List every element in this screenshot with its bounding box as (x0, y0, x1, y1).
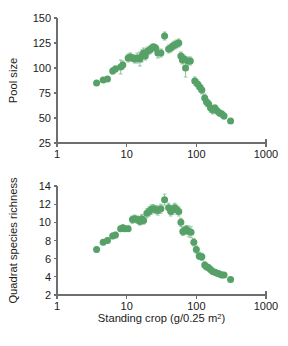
x-tick-label: 1 (54, 300, 60, 312)
y-tick-label: 75 (39, 87, 51, 99)
data-point (190, 239, 197, 246)
y-tick-label: 4 (45, 271, 51, 283)
x-tick-label: 10 (121, 148, 133, 160)
x-tick-label: 1 (54, 148, 60, 160)
data-point (227, 276, 234, 283)
x-tick-label: 100 (187, 300, 205, 312)
data-point (112, 232, 119, 239)
pool-size-scatter-plot: 2550751001251501101001000Pool size (0, 0, 288, 172)
x-tick-label: 10 (121, 300, 133, 312)
data-point (175, 208, 182, 215)
data-point (175, 40, 182, 47)
data-point (157, 50, 164, 57)
data-point (198, 87, 205, 94)
data-point (227, 118, 234, 125)
data-point (104, 76, 111, 83)
x-axis-title: Standing crop (g/0.25 m2) (98, 312, 226, 324)
y-tick-label: 14 (39, 180, 51, 192)
chart-panel-pool-size: 2550751001251501101001000Pool size (0, 0, 288, 172)
data-point (161, 196, 168, 203)
data-point (187, 58, 194, 65)
y-tick-label: 12 (39, 198, 51, 210)
data-point (198, 253, 205, 260)
data-point (193, 246, 200, 253)
y-tick-label: 6 (45, 253, 51, 265)
data-point (182, 65, 189, 72)
x-tick-label: 1000 (254, 300, 278, 312)
x-tick-label: 100 (187, 148, 205, 160)
y-axis-title: Pool size (7, 58, 19, 103)
chart-panel-species-richness: 24681012141101001000Quadrat species rich… (0, 172, 288, 346)
data-point (93, 80, 100, 87)
data-point (161, 33, 168, 40)
data-point (221, 272, 228, 279)
figure-root: 2550751001251501101001000Pool size 24681… (0, 0, 288, 346)
data-point (119, 62, 126, 69)
data-point (93, 246, 100, 253)
data-point (140, 217, 147, 224)
data-point (188, 229, 195, 236)
y-axis-title: Quadrat species richness (7, 177, 19, 304)
y-tick-label: 50 (39, 112, 51, 124)
data-point (221, 113, 228, 120)
y-tick-label: 10 (39, 216, 51, 228)
x-tick-label: 1000 (254, 148, 278, 160)
species-richness-scatter-plot: 24681012141101001000Quadrat species rich… (0, 172, 288, 346)
y-tick-label: 125 (33, 37, 51, 49)
y-tick-label: 150 (33, 12, 51, 24)
data-point (125, 225, 132, 232)
data-point (177, 219, 184, 226)
y-tick-label: 25 (39, 137, 51, 149)
y-tick-label: 100 (33, 62, 51, 74)
data-point (157, 205, 164, 212)
y-tick-label: 8 (45, 235, 51, 247)
y-tick-label: 2 (45, 289, 51, 301)
